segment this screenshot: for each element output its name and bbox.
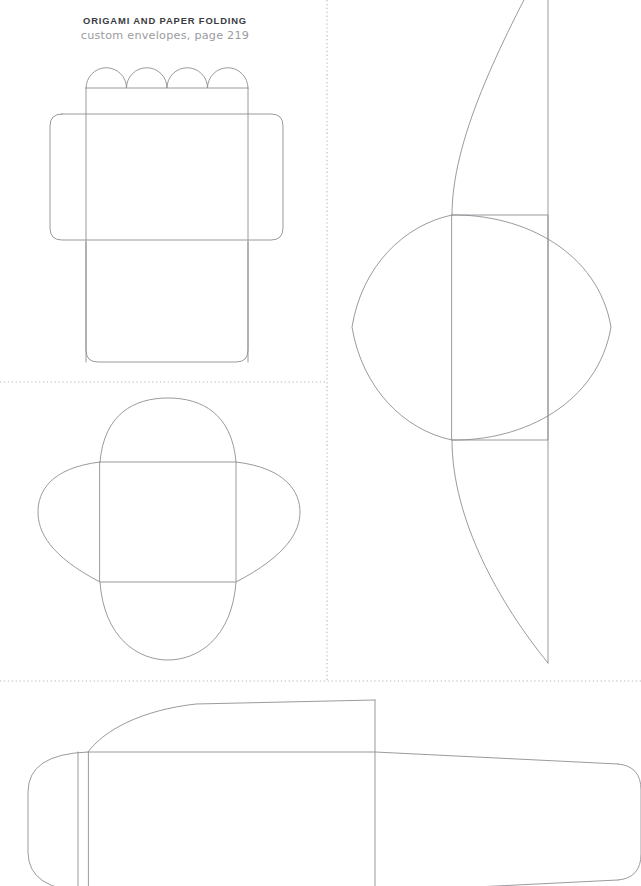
envelope-template-sheet: ORIGAMI AND PAPER FOLDING custom envelop… [0, 0, 641, 886]
template-drawing-canvas [0, 0, 641, 886]
sheet-background [0, 0, 641, 886]
